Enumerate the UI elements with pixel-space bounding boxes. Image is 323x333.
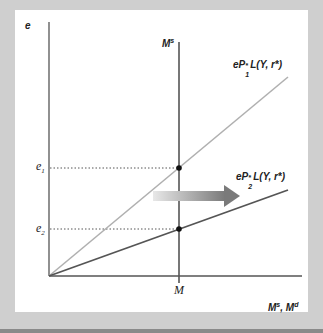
e2-label: e2 <box>36 221 45 237</box>
curve-2-label: eP*2L(Y, r*) <box>236 171 285 182</box>
y-axis-label-text: e <box>25 20 31 31</box>
curve-2-sub: 2 <box>248 183 252 190</box>
curve-1-prefix: eP <box>233 59 245 70</box>
money-supply-sup: s <box>170 37 174 44</box>
curve-2-sup: * <box>248 174 251 181</box>
e1-sub: 1 <box>41 167 45 175</box>
equilibrium-point-2 <box>176 226 182 232</box>
curve-2-suffix: L(Y, r*) <box>253 171 285 182</box>
curve-1-label: eP*1L(Y, r*) <box>233 59 282 70</box>
x-axis-label-sup2: d <box>294 301 298 308</box>
equilibrium-point-1 <box>176 165 182 171</box>
y-axis-label: e <box>25 20 31 31</box>
x-tick-label-text: M <box>174 283 184 297</box>
x-axis-label-sep: , M <box>280 302 294 313</box>
curve-2-prefix: eP <box>236 171 248 182</box>
e2-sub: 2 <box>41 229 45 237</box>
curve-1-sup: * <box>245 62 248 69</box>
shift-arrow-icon <box>153 185 240 207</box>
x-axis-label: Ms, Md <box>268 301 298 313</box>
curve-1-suffix: L(Y, r*) <box>250 59 282 70</box>
e1-label: e1 <box>36 159 45 175</box>
curve-1-sub: 1 <box>245 71 249 78</box>
x-tick-label: M <box>174 283 184 298</box>
curve-2-line <box>49 190 288 276</box>
money-supply-label: Ms <box>162 37 174 49</box>
diagram-canvas <box>0 0 323 333</box>
